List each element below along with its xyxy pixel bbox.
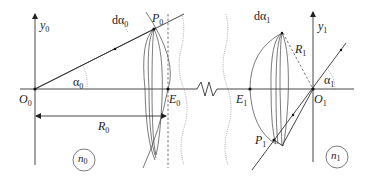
label-dalpha0: dα0	[112, 13, 128, 29]
break-line-right	[223, 14, 231, 165]
point-O0	[33, 87, 36, 90]
optics-diagram: y0 dα0 P0 α0 O0 E0 R0 n0	[0, 0, 369, 185]
label-dalpha1: dα1	[254, 9, 270, 25]
label-n1: n1	[331, 149, 341, 163]
ray-arrow-dot-upper	[340, 49, 342, 51]
label-P0: P0	[151, 11, 163, 27]
ray-lower-left	[35, 29, 154, 89]
ray-arrow-dot-lower	[292, 114, 294, 116]
point-P0	[152, 27, 155, 30]
label-R1: R1	[294, 42, 306, 58]
label-O0: O0	[19, 92, 32, 108]
label-y0: y0	[39, 18, 49, 34]
label-alpha0: α0	[73, 75, 83, 91]
ray-arrow-dot	[114, 48, 117, 51]
right-system: dα1 y1 R1 α1 E1 O1 P1 n1	[235, 9, 354, 170]
cavity-break	[179, 14, 250, 165]
point-O1	[311, 87, 314, 90]
point-P1	[272, 138, 275, 141]
label-O1: O1	[314, 92, 327, 108]
point-top-right	[281, 32, 283, 34]
label-y1: y1	[317, 19, 327, 35]
wavefront-right	[250, 33, 282, 144]
ellipse-r4	[282, 33, 288, 146]
left-system: y0 dα0 P0 α0 O0 E0 R0 n0	[19, 11, 192, 171]
label-R0: R0	[97, 119, 109, 135]
label-alpha1: α1	[324, 73, 334, 89]
alpha0-arc	[83, 66, 87, 89]
label-P1: P1	[254, 133, 266, 149]
label-E1: E1	[235, 92, 247, 108]
label-n0: n0	[78, 152, 88, 166]
point-E0	[166, 87, 169, 90]
label-E0: E0	[168, 92, 180, 108]
break-line-left	[179, 14, 187, 165]
ellipse-r3	[280, 33, 282, 146]
point-E1	[248, 87, 251, 90]
